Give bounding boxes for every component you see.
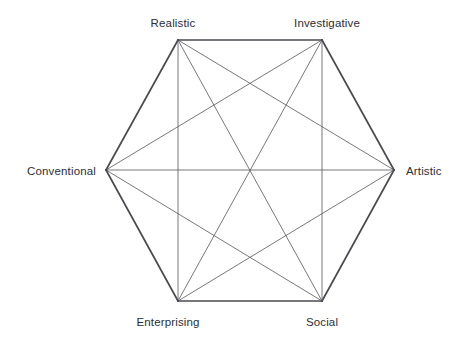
vertex-point-enterprising [177,300,179,302]
vertex-point-conventional [105,169,107,171]
vertex-label-realistic: Realistic [151,17,196,30]
edge-social-to-conventional [106,170,322,301]
edge-investigative-to-conventional [106,40,322,170]
vertex-label-social: Social [306,316,338,329]
vertex-label-investigative: Investigative [294,17,360,30]
vertex-label-artistic: Artistic [406,165,442,178]
vertex-point-artistic [393,169,395,171]
edge-layer [106,40,394,301]
riasec-hexagon-diagram: RealisticInvestigativeArtisticSocialEnte… [0,0,469,338]
vertex-point-investigative [321,39,323,41]
vertex-label-conventional: Conventional [27,165,96,178]
vertex-label-enterprising: Enterprising [136,316,199,329]
edge-investigative-to-artistic [322,40,394,170]
edge-enterprising-to-conventional [106,170,178,301]
edge-conventional-to-realistic [106,40,178,170]
edge-artistic-to-enterprising [178,170,394,301]
edge-artistic-to-social [322,170,394,301]
vertex-point-social [321,300,323,302]
vertex-point-realistic [177,39,179,41]
